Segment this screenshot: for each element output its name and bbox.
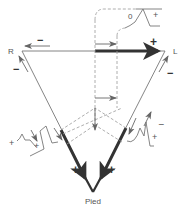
top-plus-sign: + — [150, 35, 157, 49]
node-label-pied: Pied — [85, 197, 101, 206]
top-wave-plus-label: + — [153, 10, 158, 20]
node-label-l: L — [173, 47, 178, 56]
projection-lines — [61, 9, 136, 144]
lead-iii-waveform — [127, 122, 154, 146]
top-wave-zero-label: 0 — [128, 12, 133, 21]
bottom-right-plus-sign: + — [108, 163, 115, 177]
einthoven-triangle-diagram: 0 + + + − + − + − − + + R L Pied — [0, 0, 188, 208]
lead-vectors — [61, 51, 158, 178]
wave-left-plus-b: + — [34, 141, 39, 151]
node-label-r: R — [8, 47, 14, 56]
triangle-outline — [22, 51, 165, 192]
wave-right-plus: + — [152, 132, 157, 142]
bottom-left-plus-sign: + — [72, 163, 79, 177]
left-minus-sign: − — [13, 63, 19, 75]
top-minus-sign: − — [37, 34, 43, 46]
right-minus-sign: − — [167, 67, 173, 79]
wave-left-plus-a: + — [9, 138, 14, 148]
wave-right-minus-symbol: − — [158, 119, 164, 130]
